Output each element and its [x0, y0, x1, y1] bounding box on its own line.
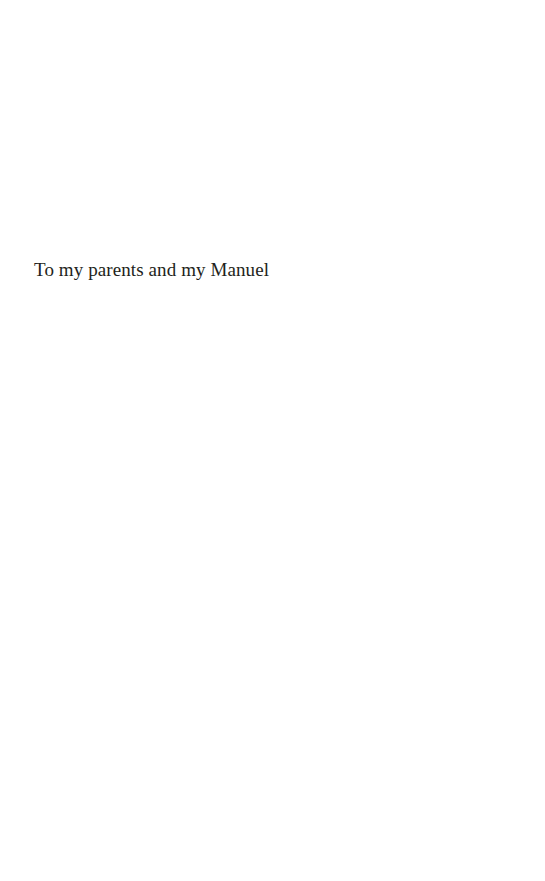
- dedication-text: To my parents and my Manuel: [34, 258, 454, 282]
- dedication-block: To my parents and my Manuel: [34, 258, 454, 282]
- document-page: To my parents and my Manuel: [0, 0, 545, 881]
